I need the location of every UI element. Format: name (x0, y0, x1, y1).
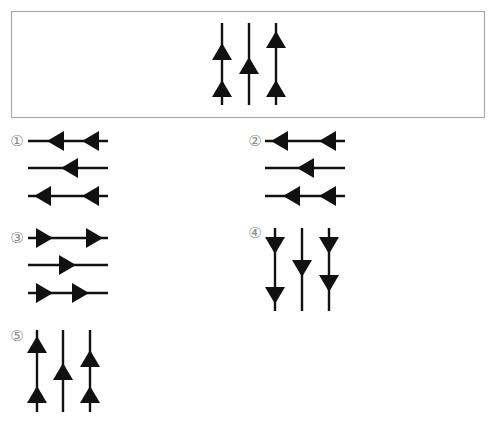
option-number-label: ① (10, 132, 23, 150)
option-number-label: ⑤ (10, 327, 23, 345)
arrow-down-icon (319, 237, 339, 254)
arrow-left-icon (82, 186, 99, 206)
arrow-up-icon (212, 43, 232, 60)
option-5[interactable]: ⑤ (10, 327, 100, 412)
option-2-wire-3 (265, 186, 345, 206)
arrow-left-icon (34, 186, 51, 206)
option-number-label: ③ (10, 229, 23, 247)
diagram-canvas: ①②③④⑤ (0, 0, 489, 423)
arrow-left-icon (319, 186, 336, 206)
option-5-wire-3 (80, 330, 100, 412)
arrow-right-icon (36, 228, 53, 248)
option-3-wire-3 (28, 283, 108, 303)
arrow-down-icon (319, 275, 339, 292)
arrow-left-icon (47, 131, 64, 151)
option-1-wire-3 (28, 186, 108, 206)
option-number-label: ② (248, 132, 261, 150)
arrow-up-icon (239, 57, 259, 74)
option-4-wire-3 (319, 228, 339, 311)
question-wire-2 (239, 23, 259, 105)
question-wire-3 (266, 23, 286, 105)
arrow-right-icon (36, 283, 53, 303)
option-4[interactable]: ④ (248, 224, 339, 311)
arrow-up-icon (27, 386, 47, 403)
arrow-right-icon (72, 283, 89, 303)
arrow-down-icon (265, 287, 285, 304)
option-5-wire-2 (53, 330, 73, 412)
option-number-label: ④ (248, 224, 261, 242)
arrow-up-icon (27, 336, 47, 353)
arrow-up-icon (53, 363, 73, 380)
arrow-left-icon (61, 158, 78, 178)
option-1-wire-1 (28, 131, 108, 151)
option-3-wire-2 (28, 255, 108, 275)
arrow-right-icon (86, 228, 103, 248)
arrow-left-icon (297, 158, 314, 178)
arrow-left-icon (271, 131, 288, 151)
arrow-up-icon (266, 31, 286, 48)
arrow-up-icon (212, 80, 232, 97)
option-4-wire-1 (265, 228, 285, 311)
arrow-down-icon (265, 237, 285, 254)
arrow-up-icon (80, 386, 100, 403)
arrow-up-icon (266, 80, 286, 97)
option-2-wire-1 (265, 131, 345, 151)
arrow-down-icon (292, 260, 312, 277)
arrow-left-icon (319, 131, 336, 151)
option-5-wire-1 (27, 330, 47, 412)
arrow-left-icon (283, 186, 300, 206)
option-4-wire-2 (292, 228, 312, 311)
arrow-up-icon (80, 350, 100, 367)
option-2[interactable]: ② (248, 131, 345, 206)
option-3-wire-1 (28, 228, 108, 248)
answer-options: ①②③④⑤ (10, 131, 345, 412)
arrow-right-icon (59, 255, 76, 275)
option-2-wire-2 (265, 158, 345, 178)
option-1[interactable]: ① (10, 131, 108, 206)
question-wire-1 (212, 23, 232, 105)
option-3[interactable]: ③ (10, 228, 108, 303)
option-1-wire-2 (28, 158, 108, 178)
question-box (12, 12, 485, 118)
arrow-left-icon (82, 131, 99, 151)
